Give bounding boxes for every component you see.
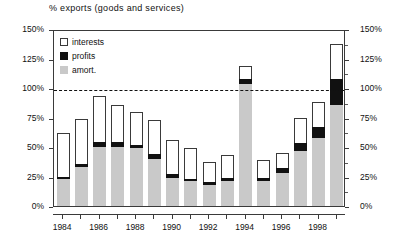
x-axis-tick-1994 [245,214,246,219]
bar-1995 [257,160,270,206]
y-axis-left-label-75pct: 75% [0,113,44,123]
bar-1987 [111,105,124,206]
bar-segment-amort-1993 [221,181,234,206]
bar-segment-interests-1985 [75,119,88,164]
y-axis-left-tick-0 [49,207,53,208]
x-axis-tick-1998 [318,214,319,219]
bar-1984 [57,133,70,206]
x-axis-label-1990: 1990 [162,222,181,232]
bar-1985 [75,119,88,206]
legend-item-profits: profits [60,50,104,62]
bar-segment-interests-1988 [130,112,143,145]
x-axis-label-1994: 1994 [235,222,254,232]
bar-1993 [221,155,234,206]
x-axis-tick-1987 [117,214,118,219]
y-axis-right-tick-0 [345,207,349,208]
x-axis-line [53,214,345,215]
bar-segment-interests-1993 [221,155,234,177]
y-axis-right-label-125pct: 125% [360,54,382,64]
reference-line-100 [54,90,344,91]
bar-1991 [184,148,197,206]
y-axis-left-label-125pct: 125% [0,54,44,64]
x-axis-tick-1992 [208,214,209,219]
bar-segment-profits-1999 [330,79,343,105]
y-axis-left-tick-150 [49,30,53,31]
bar-1986 [93,96,106,206]
bar-1992 [203,162,216,206]
y-axis-right-tick-100 [345,89,349,90]
y-axis-right-minor-tick [345,74,348,75]
bar-segment-amort-1987 [111,147,124,206]
x-axis-tick-1996 [281,214,282,219]
y-axis-right-tick-75 [345,119,349,120]
legend-label-profits: profits [72,51,95,61]
y-axis-right-minor-tick [345,104,348,105]
bar-segment-interests-1995 [257,160,270,178]
bar-segment-amort-1985 [75,167,88,206]
x-axis-label-1998: 1998 [308,222,327,232]
y-axis-right-minor-tick [345,133,348,134]
bar-1994 [239,66,252,206]
y-axis-left-label-0pct: 0% [0,201,44,211]
chart-title: % exports (goods and services) [49,3,184,13]
x-axis-tick-1997 [299,214,300,219]
bar-segment-profits-1997 [294,143,307,150]
chart-container: % exports (goods and services) 0%25%50%7… [0,0,397,249]
bar-1988 [130,112,143,206]
bar-segment-amort-1996 [276,173,289,206]
bar-1996 [276,153,289,206]
y-axis-right-tick-125 [345,60,349,61]
x-axis-label-1986: 1986 [89,222,108,232]
bar-1990 [166,140,179,206]
y-axis-right-tick-150 [345,30,349,31]
bar-segment-interests-1994 [239,66,252,79]
y-axis-right-label-50pct: 50% [360,142,377,152]
bar-1999 [330,44,343,206]
bar-segment-amort-1986 [93,147,106,206]
x-axis-tick-1988 [135,214,136,219]
bar-segment-interests-1991 [184,148,197,179]
x-axis-tick-1986 [99,214,100,219]
bar-segment-interests-1989 [148,120,161,154]
bar-1998 [312,102,325,206]
legend-item-interests: interests [60,36,104,48]
y-axis-left-tick-100 [49,89,53,90]
y-axis-right-minor-tick [345,192,348,193]
bar-segment-interests-1990 [166,140,179,174]
x-axis-tick-1990 [172,214,173,219]
bar-segment-interests-1997 [294,118,307,144]
x-axis-tick-1984 [62,214,63,219]
bar-segment-interests-1986 [93,96,106,142]
x-axis-tick-1995 [263,214,264,219]
y-axis-left-label-150pct: 150% [0,24,44,34]
y-axis-left-label-25pct: 25% [0,172,44,182]
chart-legend: interests profits amort. [60,36,104,78]
bar-segment-amort-1989 [148,159,161,206]
y-axis-left-tick-125 [49,60,53,61]
x-axis-label-1992: 1992 [199,222,218,232]
legend-swatch-amort-icon [60,66,68,74]
legend-label-interests: interests [72,37,104,47]
legend-swatch-interests-icon [60,38,68,46]
bar-segment-interests-1987 [111,105,124,143]
bar-segment-amort-1984 [57,179,70,206]
x-axis-tick-1999 [336,214,337,219]
x-axis-label-1996: 1996 [272,222,291,232]
x-axis-tick-1985 [80,214,81,219]
bar-segment-amort-1990 [166,178,179,206]
y-axis-left-label-50pct: 50% [0,142,44,152]
bar-segment-amort-1995 [257,181,270,206]
y-axis-right-minor-tick [345,163,348,164]
y-axis-left-tick-25 [49,178,53,179]
bar-segment-interests-1998 [312,102,325,127]
bar-segment-amort-1988 [130,148,143,206]
bar-segment-interests-1984 [57,133,70,177]
y-axis-right-tick-25 [345,178,349,179]
bar-1989 [148,120,161,206]
bar-1997 [294,118,307,207]
x-axis-tick-1991 [190,214,191,219]
y-axis-right-label-75pct: 75% [360,113,377,123]
legend-label-amort: amort. [72,65,96,75]
bar-segment-interests-1996 [276,153,289,168]
x-axis-tick-1989 [153,214,154,219]
